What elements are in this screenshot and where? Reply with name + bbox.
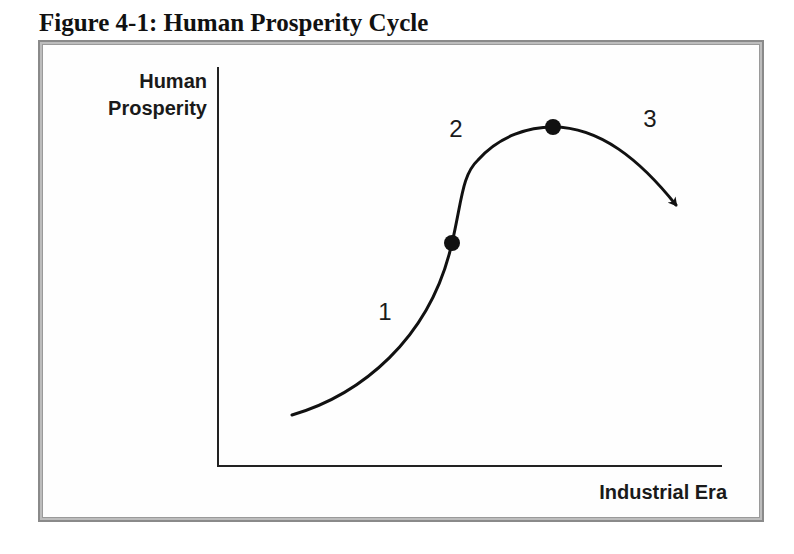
phase-label-1: 1 — [378, 298, 391, 325]
y-axis-label-line2: Prosperity — [108, 97, 208, 119]
inflection-point-marker — [444, 235, 460, 251]
prosperity-cycle-diagram: Human Prosperity Industrial Era 1 2 3 — [0, 0, 794, 554]
prosperity-curve — [292, 127, 676, 415]
phase-label-3: 3 — [643, 105, 656, 132]
y-axis-label-line1: Human — [139, 70, 207, 92]
x-axis-label: Industrial Era — [599, 481, 728, 503]
peak-point-marker — [545, 119, 561, 135]
phase-label-2: 2 — [449, 115, 462, 142]
